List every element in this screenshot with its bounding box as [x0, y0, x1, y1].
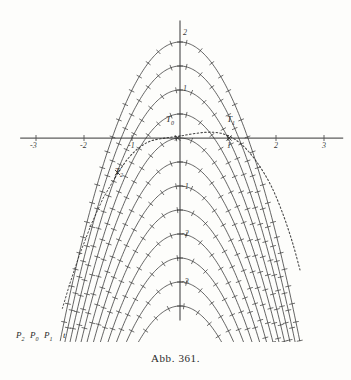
- x-tick-label-1: 1: [227, 141, 231, 150]
- curve-hatch-tick: [146, 302, 150, 305]
- curve-hatch-tick: [210, 254, 214, 257]
- curve-hatch-tick: [293, 321, 298, 322]
- curve-hatch-tick: [137, 75, 142, 78]
- curve-hatch-tick: [216, 335, 220, 338]
- y-tick-label-1: 1: [183, 84, 187, 93]
- curve-hatch-tick: [146, 182, 150, 185]
- curve-hatch-tick: [282, 269, 287, 270]
- curve-hatch-tick: [250, 343, 255, 345]
- curve-hatch-tick: [146, 134, 150, 137]
- curve-hatch-tick: [177, 208, 178, 213]
- figure-caption: Abb. 361.: [0, 352, 351, 364]
- curve-hatch-tick: [282, 341, 287, 342]
- curve-hatch-tick: [62, 321, 67, 322]
- point-label-T2: T2: [115, 166, 123, 178]
- curve-hatch-tick: [183, 304, 184, 309]
- curve-hatch-tick: [146, 254, 150, 257]
- curve-hatch-tick: [210, 62, 214, 65]
- curve-hatch-tick: [282, 293, 287, 294]
- y-tick-label-neg1: -1: [182, 182, 189, 191]
- curve-hatch-tick: [210, 302, 214, 305]
- parabola-field-plot: [0, 0, 351, 380]
- point-label-P2-sub: 2: [22, 336, 25, 342]
- curve-hatch-tick: [65, 327, 70, 328]
- curve-hatch-tick: [196, 311, 199, 315]
- curve-hatch-tick: [73, 269, 78, 270]
- y-tick-label-neg2: -2: [182, 229, 189, 238]
- curve-hatch-tick: [286, 310, 291, 311]
- curve-hatch-tick: [210, 86, 214, 89]
- curve-hatch-tick: [161, 191, 164, 195]
- curve-hatch-tick: [140, 215, 144, 218]
- curve-hatch-tick: [161, 143, 164, 147]
- curve-hatch-tick: [146, 62, 150, 65]
- curve-hatch-tick: [290, 327, 295, 328]
- point-label-P1-sub: 1: [50, 336, 53, 342]
- curve-hatch-tick: [137, 195, 142, 198]
- curve-hatch-tick: [146, 86, 150, 89]
- point-label-P2: P2: [16, 330, 25, 342]
- curve-hatch-tick: [176, 88, 177, 93]
- point-label-P1: P1: [44, 330, 53, 342]
- curve-hatch-tick: [221, 224, 226, 227]
- curve-hatch-tick: [140, 167, 144, 170]
- curve-hatch-tick: [143, 329, 147, 332]
- curve-hatch-tick: [137, 99, 142, 102]
- curve-hatch-tick: [219, 267, 223, 270]
- curve-hatch-tick: [283, 322, 288, 323]
- curve-hatch-tick: [137, 315, 142, 318]
- curve-hatch-tick: [232, 343, 237, 345]
- curve-hatch-tick: [141, 237, 145, 240]
- curve-label-t-text: t: [63, 330, 66, 340]
- curve-hatch-tick: [297, 340, 302, 341]
- curve-hatch-tick: [141, 285, 145, 288]
- point-label-T2-sub: 2: [120, 172, 123, 178]
- point-label-T1-sub: 1: [232, 120, 235, 126]
- curve-hatch-tick: [243, 345, 248, 347]
- curve-hatch-tick: [162, 214, 165, 218]
- y-tick-label-2: 2: [183, 28, 187, 37]
- curve-hatch-tick: [286, 286, 291, 287]
- curve-hatch-tick: [177, 256, 178, 261]
- curve-hatch-tick: [219, 75, 223, 78]
- curve-hatch-tick: [140, 119, 144, 122]
- curve-hatch-tick: [212, 161, 216, 164]
- x-tick-label-2: 2: [274, 141, 278, 150]
- curve-hatch-tick: [210, 182, 214, 185]
- point-label-T0-sub: 0: [171, 120, 174, 126]
- figure-root: -3 -2 -1 1 2 3 2 1 -1 -2 -3 T0 T1 T2 P2 …: [0, 0, 351, 380]
- curve-hatch-tick: [73, 293, 78, 294]
- curve-hatch-tick: [70, 328, 75, 329]
- curve-hatch-tick: [214, 235, 218, 238]
- curve-hatch-tick: [210, 134, 214, 137]
- x-tick-label-neg3: -3: [30, 141, 37, 150]
- point-label-P0: P0: [30, 330, 39, 342]
- curve-hatch-tick: [219, 195, 223, 198]
- curve-hatch-tick: [258, 343, 263, 345]
- curve-hatch-tick: [65, 303, 70, 304]
- curve-hatch-tick: [137, 267, 142, 270]
- curve-hatch-tick: [287, 339, 292, 340]
- curve-hatch-tick: [290, 303, 295, 304]
- curve-hatch-tick: [221, 176, 226, 179]
- curve-hatch-tick: [69, 310, 74, 311]
- curve-hatch-tick: [176, 184, 177, 189]
- y-tick-label-neg3: -3: [182, 277, 189, 286]
- curve-label-t: t: [63, 330, 66, 340]
- curve-hatch-tick: [212, 209, 216, 212]
- point-label-P0-sub: 0: [36, 336, 39, 342]
- point-label-T0: T0: [166, 114, 174, 126]
- curve-hatch-tick: [219, 147, 223, 150]
- curve-hatch-tick: [221, 128, 226, 131]
- x-tick-label-neg1: -1: [128, 141, 135, 150]
- curve-hatch-tick: [219, 99, 223, 102]
- curve-hatch-tick: [69, 286, 74, 287]
- x-tick-label-3: 3: [322, 141, 326, 150]
- curve-hatch-tick: [219, 315, 223, 318]
- curve-hatch-tick: [214, 283, 218, 286]
- curve-hatch-tick: [293, 345, 298, 346]
- curve-field-group: [60, 40, 302, 347]
- point-label-T1: T1: [227, 114, 235, 126]
- curve-hatch-tick: [162, 262, 165, 266]
- curve-hatch-tick: [161, 95, 164, 99]
